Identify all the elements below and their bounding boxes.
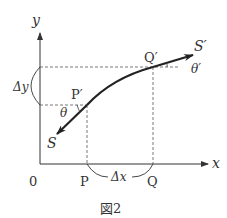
delta-y-brace bbox=[31, 67, 40, 105]
delta-x-brace bbox=[87, 164, 108, 177]
point-p-prime-label: P′ bbox=[71, 87, 83, 102]
delta-y-label: Δy bbox=[12, 80, 29, 94]
figure-caption: 図2 bbox=[100, 201, 121, 216]
point-q-prime-label: Q′ bbox=[144, 50, 158, 65]
theta-label: θ bbox=[60, 106, 68, 120]
origin-label: 0 bbox=[29, 174, 37, 189]
point-s-label: S bbox=[47, 135, 57, 151]
point-q-label: Q bbox=[147, 174, 158, 189]
delta-x-label: Δx bbox=[110, 170, 127, 184]
tangent-vector-s-prime bbox=[153, 55, 193, 67]
theta-prime-label: θ′ bbox=[191, 62, 201, 76]
theta-arc bbox=[77, 105, 80, 112]
x-axis-label: x bbox=[212, 155, 220, 171]
velocity-curve-diagram: y x 0 P Q Δx Δy P′ Q′ S S′ θ θ′ 図2 bbox=[0, 0, 227, 218]
trajectory-curve bbox=[87, 67, 153, 105]
point-p-label: P bbox=[80, 174, 89, 189]
y-axis-label: y bbox=[31, 12, 41, 28]
point-s-prime-label: S′ bbox=[194, 38, 208, 54]
